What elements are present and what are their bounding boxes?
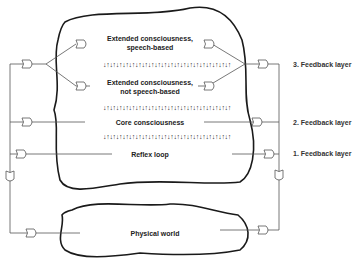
feedback-layer-2: 2. Feedback layer <box>293 119 351 126</box>
interaction-arrows: ↓↑↓↑↓↑↓↑↓↑↓↑↓↑↓↑↓↑↓↑↓↑↓↑↓↑↓↑↓↑↓↑↓↑↓↑↓↑↓↑ <box>103 105 231 111</box>
gate-icon <box>76 82 86 90</box>
interaction-arrows: ↓↑↓↑↓↑↓↑↓↑↓↑↓↑↓↑↓↑↓↑↓↑↓↑↓↑↓↑↓↑↓↑↓↑↓↑↓↑↓↑ <box>103 134 231 140</box>
gate-icon <box>22 60 32 68</box>
gate-icon <box>22 118 32 126</box>
gate-icon <box>204 82 214 90</box>
gate-icon <box>6 171 14 181</box>
gate-icon <box>26 229 36 237</box>
gate-icon <box>252 118 262 126</box>
level-core: Core consciousness <box>100 118 200 127</box>
interaction-arrows: ↓↑↓↑↓↑↓↑↓↑↓↑↓↑↓↑↓↑↓↑↓↑↓↑↓↑↓↑↓↑↓↑↓↑↓↑↓↑↓↑ <box>103 62 231 68</box>
level-extended-speech: Extended consciousness, speech-based <box>100 34 200 52</box>
physical-world-label: Physical world <box>115 229 195 238</box>
gate-icon <box>76 40 86 48</box>
gate-icon <box>264 150 274 158</box>
gate-icon <box>258 60 268 68</box>
gate-icon <box>16 150 26 158</box>
feedback-layer-3: 3. Feedback layer <box>293 61 351 68</box>
level-reflex: Reflex loop <box>120 150 180 159</box>
gate-icon <box>258 226 268 234</box>
level-extended-nonspeech: Extended consciousness, not speech-based <box>98 78 202 96</box>
gate-icon <box>204 40 214 48</box>
gate-icon <box>275 170 283 180</box>
feedback-layer-1: 1. Feedback layer <box>293 150 351 157</box>
